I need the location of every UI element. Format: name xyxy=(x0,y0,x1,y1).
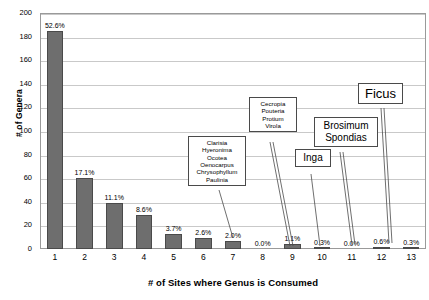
bar-slot: 2.0% xyxy=(218,13,248,249)
bar-data-label: 17.1% xyxy=(75,169,95,176)
bar-data-label: 0.0% xyxy=(255,240,271,247)
x-axis-tick-label: 3 xyxy=(99,253,129,262)
x-axis-tick-label: 4 xyxy=(129,253,159,262)
x-axis-tick-label: 2 xyxy=(70,253,100,262)
y-axis-tick-label: 160 xyxy=(19,56,32,64)
bar[interactable] xyxy=(403,247,420,249)
y-axis-tick-label: 80 xyxy=(24,151,32,159)
x-axis-tick-label: 10 xyxy=(307,253,337,262)
y-axis-tick-label: 180 xyxy=(19,33,32,41)
callout-inga: Inga xyxy=(295,149,331,167)
callout-4-genera: Cecropia Pouteria Protium Virola xyxy=(249,97,297,132)
bar-data-label: 0.6% xyxy=(373,238,389,245)
x-axis-title: # of Sites where Genus is Consumed xyxy=(40,277,426,288)
bar[interactable] xyxy=(314,247,331,249)
bar[interactable] xyxy=(165,234,182,249)
bar[interactable] xyxy=(76,178,93,249)
bar-data-label: 1.1% xyxy=(284,235,300,242)
y-axis-tick-label: 100 xyxy=(19,127,32,135)
x-axis-tick-label: 12 xyxy=(367,253,397,262)
callout-brosimum-spondias: Brosimum Spondias xyxy=(314,117,378,147)
bar[interactable] xyxy=(373,247,390,249)
x-axis-tick-label: 6 xyxy=(188,253,218,262)
x-axis-tick-label: 9 xyxy=(278,253,308,262)
bar-slot: 3.7% xyxy=(159,13,189,249)
bar[interactable] xyxy=(106,203,123,249)
bar-slot: 52.6% xyxy=(40,13,70,249)
y-axis-tick-label: 20 xyxy=(24,222,32,230)
bar-data-label: 0.3% xyxy=(403,239,419,246)
bar-data-label: 52.6% xyxy=(45,22,65,29)
bar[interactable] xyxy=(195,238,212,249)
bar[interactable] xyxy=(284,244,301,249)
bar-slot: 0.3% xyxy=(396,13,426,249)
bar-data-label: 8.6% xyxy=(136,206,152,213)
y-axis-tick-label: 0 xyxy=(28,245,32,253)
bar-data-label: 0.0% xyxy=(344,240,360,247)
x-axis-tick-label: 13 xyxy=(396,253,426,262)
bar-slot: 17.1% xyxy=(70,13,100,249)
y-axis-tick-labels: 020406080100120140160180200 xyxy=(0,13,36,249)
y-axis-tick-label: 60 xyxy=(24,174,32,182)
bar-data-label: 2.0% xyxy=(225,232,241,239)
bar-data-label: 3.7% xyxy=(166,225,182,232)
bar[interactable] xyxy=(136,215,153,249)
x-axis-tick-label: 11 xyxy=(337,253,367,262)
x-axis-tick-labels: 12345678910111213 xyxy=(40,253,426,269)
x-axis-tick-label: 5 xyxy=(159,253,189,262)
x-axis-tick-label: 1 xyxy=(40,253,70,262)
bar-data-label: 11.1% xyxy=(105,194,124,201)
y-axis-tick-label: 120 xyxy=(19,104,32,112)
callout-ficus: Ficus xyxy=(358,83,403,104)
y-axis-tick-label: 200 xyxy=(19,9,32,17)
bar-slot: 11.1% xyxy=(99,13,129,249)
bar-slot: 2.6% xyxy=(188,13,218,249)
bar-chart: # of Genera 020406080100120140160180200 … xyxy=(0,0,429,300)
x-axis-tick-label: 8 xyxy=(248,253,278,262)
y-axis-tick-label: 140 xyxy=(19,80,32,88)
y-axis-tick-label: 40 xyxy=(24,198,32,206)
bar[interactable] xyxy=(47,31,64,249)
x-axis-tick-label: 7 xyxy=(218,253,248,262)
bar-slot: 8.6% xyxy=(129,13,159,249)
bar[interactable] xyxy=(225,241,242,249)
bar-data-label: 2.6% xyxy=(195,229,211,236)
bar-data-label: 0.3% xyxy=(314,239,330,246)
callout-6-genera: Clarisia Hyeronima Ocotea Oenocarpus Chr… xyxy=(188,136,246,186)
